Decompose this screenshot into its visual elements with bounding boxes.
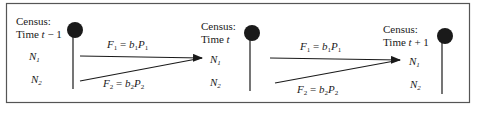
f1-arrow-icon <box>270 58 400 60</box>
census-marker-icon <box>67 22 83 38</box>
census-time-label: Time t <box>201 33 231 45</box>
f1-equation: F1 = b1P1 <box>106 38 149 52</box>
census-label: Census: <box>201 20 236 32</box>
census-time-label: Time t + 1 <box>383 36 429 48</box>
n2-label: N2 <box>409 78 421 92</box>
f1-arrow-icon <box>80 56 202 58</box>
n1-label: N1 <box>209 53 221 67</box>
census-marker-icon <box>244 25 260 41</box>
n2-label: N2 <box>30 73 42 87</box>
f2-equation: F2 = b2P2 <box>102 77 145 91</box>
census-flow-diagram: Census: Time t − 1 N1 N2 F1 = b1P1 F2 = … <box>0 0 478 113</box>
n1-label: N1 <box>28 50 40 64</box>
diagram-frame <box>7 4 470 103</box>
f2-arrow-line <box>275 60 400 83</box>
n2-label: N2 <box>209 76 221 90</box>
census-time-label: Time t − 1 <box>16 28 62 40</box>
census-label: Census: <box>16 15 51 27</box>
census-time-t-plus-1: Census: Time t + 1 N1 N2 <box>383 23 453 94</box>
flow-t-to-t-plus-1: F1 = b1P1 F2 = b2P2 <box>270 40 400 97</box>
flow-t-minus-1-to-t: F1 = b1P1 F2 = b2P2 <box>80 38 202 91</box>
census-time-t-minus-1: Census: Time t − 1 N1 N2 <box>16 15 83 89</box>
f2-equation: F2 = b2P2 <box>296 83 339 97</box>
f1-equation: F1 = b1P1 <box>299 40 342 54</box>
f2-arrow-line <box>80 58 202 81</box>
census-time-t: Census: Time t N1 N2 <box>201 20 260 91</box>
census-label: Census: <box>383 23 418 35</box>
n1-label: N1 <box>408 55 420 69</box>
census-marker-icon <box>437 28 453 44</box>
